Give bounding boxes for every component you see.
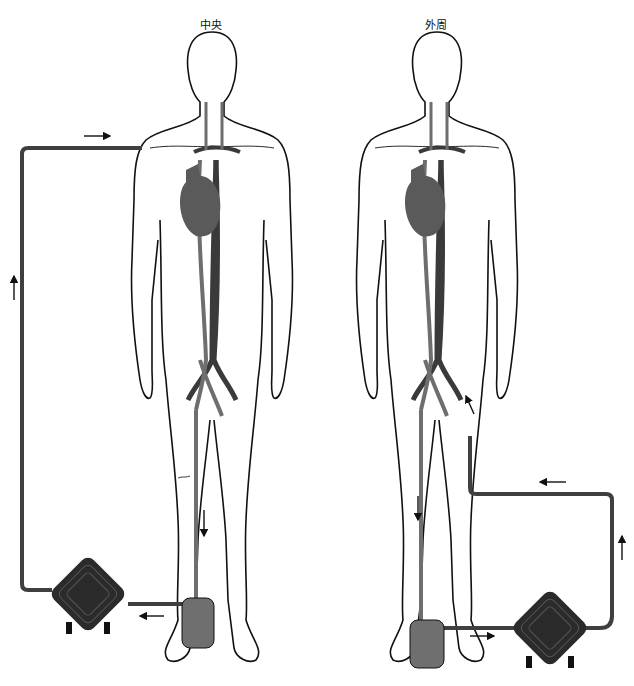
- circuit-central: [22, 148, 184, 604]
- vessels-peripheral: [405, 102, 465, 620]
- venous-reservoir-peripheral: [410, 620, 444, 668]
- venous-reservoir-central: [182, 598, 214, 648]
- oxygenator-central: [48, 554, 127, 634]
- circuit-peripheral: [436, 436, 612, 628]
- oxygenator-peripheral: [510, 588, 589, 668]
- ecmo-diagram: [0, 0, 634, 686]
- vessels-central: [180, 102, 240, 600]
- flow-arrows: [14, 136, 622, 636]
